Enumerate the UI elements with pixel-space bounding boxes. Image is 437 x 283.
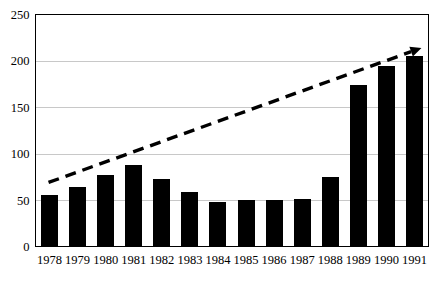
- x-tick-label-1980: 1980: [93, 253, 118, 267]
- y-tick-label-150: 150: [11, 101, 30, 115]
- x-tick-label-1988: 1988: [318, 253, 343, 267]
- bar-1980: [97, 175, 114, 246]
- x-tick-label-1991: 1991: [402, 253, 427, 267]
- bar-1981: [125, 165, 142, 247]
- bar-1986: [266, 200, 283, 246]
- bar-1989: [350, 85, 367, 246]
- x-tick-label-1987: 1987: [290, 253, 315, 267]
- bar-1990: [378, 66, 395, 246]
- bar-1985: [238, 200, 255, 246]
- x-tick-label-1990: 1990: [374, 253, 399, 267]
- bar-1984: [209, 202, 226, 247]
- bar-1982: [153, 179, 170, 247]
- bar-chart: 050100150200250 197819791980198119821983…: [0, 0, 437, 283]
- bar-1978: [41, 195, 58, 247]
- x-tick-label-1982: 1982: [149, 253, 174, 267]
- x-tick-label-1986: 1986: [262, 253, 287, 267]
- bar-1988: [322, 177, 339, 247]
- x-tick-label-1984: 1984: [205, 253, 231, 267]
- bar-1983: [181, 192, 198, 247]
- bar-1991: [406, 56, 423, 246]
- y-tick-label-100: 100: [11, 147, 30, 161]
- x-tick-label-1983: 1983: [177, 253, 202, 267]
- y-tick-label-200: 200: [11, 54, 30, 68]
- x-tick-label-1978: 1978: [37, 253, 62, 267]
- x-tick-label-1981: 1981: [121, 253, 146, 267]
- chart-canvas: 050100150200250 197819791980198119821983…: [0, 0, 437, 283]
- y-tick-label-0: 0: [23, 240, 29, 254]
- y-tick-label-250: 250: [11, 8, 30, 22]
- bar-1987: [294, 199, 311, 246]
- x-tick-label-1989: 1989: [346, 253, 371, 267]
- bar-1979: [69, 187, 86, 246]
- x-tick-label-1979: 1979: [65, 253, 90, 267]
- x-tick-label-1985: 1985: [234, 253, 259, 267]
- y-tick-label-50: 50: [17, 194, 30, 208]
